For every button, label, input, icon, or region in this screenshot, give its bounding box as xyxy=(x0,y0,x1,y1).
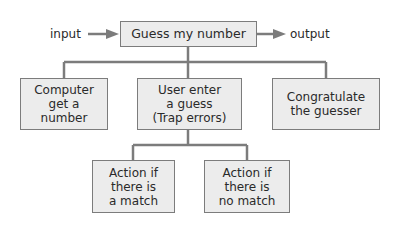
root-node: Guess my number xyxy=(120,21,257,47)
node-action-match: Action if there is a match xyxy=(92,160,175,213)
input-arrow-icon xyxy=(106,29,119,39)
node-action-no-match: Action if there is no match xyxy=(204,160,290,213)
input-label: input xyxy=(50,27,81,41)
node-computer-get-number: Computer get a number xyxy=(20,78,108,130)
node-user-enter-guess: User enter a guess (Trap errors) xyxy=(137,78,242,130)
output-label: output xyxy=(290,27,330,41)
output-arrow-icon xyxy=(273,29,286,39)
node-congratulate: Congratulate the guesser xyxy=(272,78,380,130)
